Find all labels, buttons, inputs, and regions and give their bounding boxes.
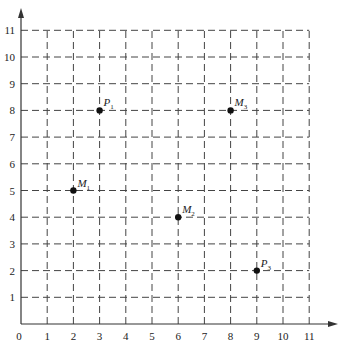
coordinate-grid-chart: 01234567891011 1234567891011 P1M3M1M2P3 xyxy=(0,0,345,348)
data-point-label: M1 xyxy=(76,177,90,192)
data-point-marker xyxy=(227,107,233,113)
y-tick-label: 5 xyxy=(10,185,16,197)
y-tick-label: 4 xyxy=(10,211,16,223)
y-tick-label: 3 xyxy=(10,238,16,250)
x-tick-label: 10 xyxy=(278,330,290,342)
data-point-marker xyxy=(70,187,76,193)
y-axis-arrow-icon xyxy=(18,8,24,18)
y-tick-label: 11 xyxy=(4,24,15,36)
data-point-label: P3 xyxy=(260,257,272,272)
x-tick-label: 2 xyxy=(71,330,77,342)
x-tick-label: 5 xyxy=(149,330,155,342)
data-points: P1M3M1M2P3 xyxy=(70,96,271,273)
data-point-label: P1 xyxy=(103,96,115,111)
y-tick-label: 9 xyxy=(10,78,16,90)
y-tick-label: 6 xyxy=(10,158,16,170)
y-tick-label: 10 xyxy=(4,51,16,63)
x-axis-arrow-icon xyxy=(328,321,338,327)
x-tick-label: 11 xyxy=(304,330,315,342)
y-axis-tick-labels: 1234567891011 xyxy=(4,24,16,303)
data-point-marker xyxy=(254,267,260,273)
x-tick-label: 7 xyxy=(202,330,208,342)
x-tick-label: 0 xyxy=(16,330,22,342)
x-tick-label: 3 xyxy=(97,330,103,342)
y-tick-label: 8 xyxy=(10,104,16,116)
x-tick-label: 8 xyxy=(228,330,234,342)
data-point-marker xyxy=(175,214,181,220)
x-tick-label: 1 xyxy=(44,330,50,342)
y-tick-label: 2 xyxy=(10,265,16,277)
x-tick-label: 4 xyxy=(123,330,129,342)
dashed-grid xyxy=(21,30,309,324)
x-tick-label: 6 xyxy=(175,330,181,342)
x-tick-label: 9 xyxy=(254,330,260,342)
x-axis-tick-labels: 01234567891011 xyxy=(16,330,314,342)
y-tick-label: 1 xyxy=(10,291,16,303)
y-tick-label: 7 xyxy=(10,131,16,143)
data-point-label: M3 xyxy=(234,96,248,111)
data-point-label: M2 xyxy=(181,203,195,218)
data-point-marker xyxy=(96,107,102,113)
